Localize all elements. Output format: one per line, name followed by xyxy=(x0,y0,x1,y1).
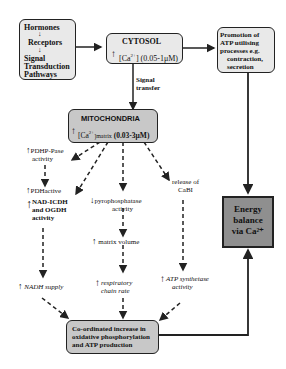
cytosol-title: CYTOSOL xyxy=(122,37,161,46)
promotion-line: contraction, xyxy=(227,55,263,63)
mitochondria-box: MITOCHONDRIA ↑ [Ca2+]matrix (0.03-3μM) xyxy=(68,109,158,143)
release-label: release ofCaBI xyxy=(172,178,199,194)
mitochondria-title: MITOCHONDRIA xyxy=(81,114,140,123)
coordinated-line: oxidative phosphorylation xyxy=(72,333,150,341)
matrix-volume-label: ↑ matrix volume xyxy=(92,237,139,247)
receptors-label: Receptors xyxy=(28,38,62,47)
up-arrow-icon: ↑ xyxy=(71,126,76,135)
cytosol-box: CYTOSOL ↑ [Ca2+] (0.05-1μM) xyxy=(106,33,183,64)
up-arrow-icon: ↑ xyxy=(111,49,116,58)
energy-balance-box: Energy balance via Ca²⁺ xyxy=(222,196,274,248)
signal-transfer-label: Signaltransfer xyxy=(136,76,160,92)
coordinated-box: Co-ordinated increase in oxidative phosp… xyxy=(66,320,159,354)
nad-label: ↑ NAD-ICDH and OGDH activity xyxy=(26,198,68,222)
pdh-label: ↑PDHactive xyxy=(26,186,61,196)
nadh-label: ↑ NADH supply xyxy=(18,282,63,292)
energy-line: balance xyxy=(224,215,272,226)
promotion-line: processes e.g. xyxy=(220,47,260,55)
hormones-label: Hormones xyxy=(24,23,60,32)
promotion-line: secretion xyxy=(227,63,254,71)
pathways-label: Pathways xyxy=(24,70,57,79)
cytosol-ca: [Ca2+] (0.05-1μM) xyxy=(119,51,178,63)
pdhp-label: ↑PDHP-Paseactivity xyxy=(26,146,64,163)
pyro-label: ↓pyrophosphataseactivity xyxy=(90,196,142,213)
promotion-line: ATP utilising xyxy=(220,39,259,47)
promotion-line: Promotion of xyxy=(220,31,259,39)
mitochondria-ca: [Ca2+]matrix (0.03-3μM) xyxy=(78,128,149,141)
atp-label: ↑ ATP synthetase activity xyxy=(160,275,209,291)
coordinated-line: and ATP production xyxy=(72,341,132,349)
coordinated-line: Co-ordinated increase in xyxy=(72,325,146,333)
energy-line: Energy xyxy=(224,204,272,215)
promotion-box: Promotion of ATP utilising processes e.g… xyxy=(217,27,275,73)
respiratory-label: ↑ respiratory chain rate xyxy=(95,279,132,295)
hormones-box: Hormones ↓ Receptors ↓ Signal Transducti… xyxy=(19,19,76,80)
energy-line: via Ca²⁺ xyxy=(224,226,272,237)
